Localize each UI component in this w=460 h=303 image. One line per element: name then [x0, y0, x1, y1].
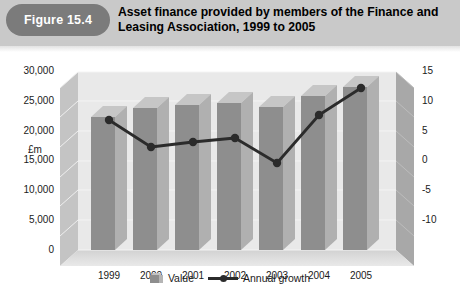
figure-header: Figure 15.4 Asset finance provided by me…: [0, 0, 460, 46]
y-axis-tick-5000: 5,000: [2, 214, 54, 225]
bar-swatch-icon: [150, 273, 163, 283]
bar-2001: [175, 94, 211, 250]
y2-axis-tick-5: 5: [422, 125, 456, 136]
y-axis-tick-15000: 15,000: [2, 154, 54, 165]
legend-item-annual-growth: Annual growth: [208, 272, 310, 284]
y-axis-tick-30000: 30,000: [2, 65, 54, 76]
figure-title: Asset finance provided by members of the…: [118, 5, 454, 34]
bar-2004: [301, 85, 337, 250]
legend-label-annual-growth: Annual growth: [243, 272, 310, 284]
y2-axis-tick-neg5: -5: [422, 184, 456, 195]
legend-label-value: Value: [168, 272, 194, 284]
figure-container: Figure 15.4 Asset finance provided by me…: [0, 0, 460, 303]
y2-axis-tick-neg10: -10: [422, 214, 456, 225]
y2-axis-tick-10: 10: [422, 95, 456, 106]
chart-svg: [0, 52, 460, 303]
bar-2003: [259, 96, 295, 250]
legend-item-value: Value: [150, 272, 194, 284]
bar-2000: [133, 97, 169, 250]
chart-legend: Value Annual growth: [0, 268, 460, 288]
bar-2002: [217, 92, 253, 250]
y-axis-tick-10000: 10,000: [2, 184, 54, 195]
y-axis-tick-0: 0: [2, 244, 54, 255]
figure-number-badge: Figure 15.4: [6, 4, 110, 36]
y-axis-unit-label: £m: [28, 144, 42, 155]
figure-footer-strip: [0, 292, 460, 303]
y2-axis-tick-0: 0: [422, 154, 456, 165]
chart-plot-area: 30,000 25,000 20,000 15,000 10,000 5,000…: [0, 52, 460, 303]
y2-axis-tick-15: 15: [422, 65, 456, 76]
bar-2005: [343, 76, 379, 250]
plot-floor: [60, 250, 414, 266]
y-axis-tick-20000: 20,000: [2, 125, 54, 136]
line-marker-icon: [208, 273, 238, 283]
y-axis-tick-25000: 25,000: [2, 95, 54, 106]
